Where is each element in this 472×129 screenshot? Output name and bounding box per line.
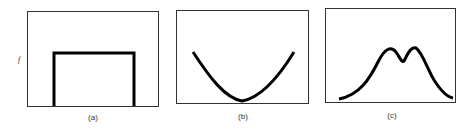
panel-c (326, 9, 456, 103)
panel-b-caption: (b) (223, 112, 263, 121)
panel-a-frame (28, 12, 159, 107)
panel-c-frame (326, 9, 456, 103)
y-axis-label: f (18, 55, 20, 64)
panel-b (177, 11, 309, 104)
panel-c-caption: (c) (372, 111, 412, 120)
panel-a-caption: (a) (73, 113, 113, 122)
panel-b-curve (193, 52, 294, 101)
panel-c-curve (339, 48, 453, 99)
panel-a (28, 12, 159, 107)
figure-canvas (0, 0, 472, 129)
panel-a-curve (54, 53, 134, 106)
